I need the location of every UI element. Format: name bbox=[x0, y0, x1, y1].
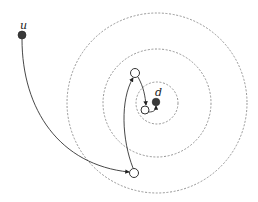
edge-u-to-bottom bbox=[22, 39, 129, 172]
waypoint-node-bottom bbox=[130, 169, 139, 178]
waypoint-node-inner bbox=[141, 106, 149, 114]
destination-node-d bbox=[152, 98, 160, 106]
edge-bottom-to-top bbox=[124, 78, 133, 168]
routing-diagram: u d bbox=[0, 0, 258, 202]
source-label: u bbox=[20, 19, 27, 32]
waypoint-node-top bbox=[131, 69, 140, 78]
edge-inner-to-d bbox=[149, 106, 156, 112]
edge-top-to-inner bbox=[138, 77, 146, 105]
destination-label: d bbox=[155, 86, 162, 99]
source-node-u bbox=[18, 31, 26, 39]
